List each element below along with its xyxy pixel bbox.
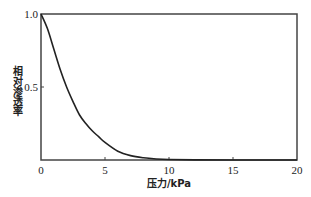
x-axis-title: 压力/kPa [147,177,191,189]
x-tick-label: 10 [164,164,176,176]
x-tick-label: 15 [228,164,240,176]
y-axis-title: 相对渗透率 [10,66,22,116]
x-tick-label: 20 [292,164,304,176]
chart-plot: 05101520 0.51.0 压力/kPa [0,0,311,197]
x-tick-label: 5 [102,164,108,176]
y-tick-label: 1.0 [24,8,38,20]
x-tick-label: 0 [38,164,44,176]
plot-frame [41,14,297,160]
data-curve [41,14,297,160]
y-tick-label: 0.5 [24,81,38,93]
